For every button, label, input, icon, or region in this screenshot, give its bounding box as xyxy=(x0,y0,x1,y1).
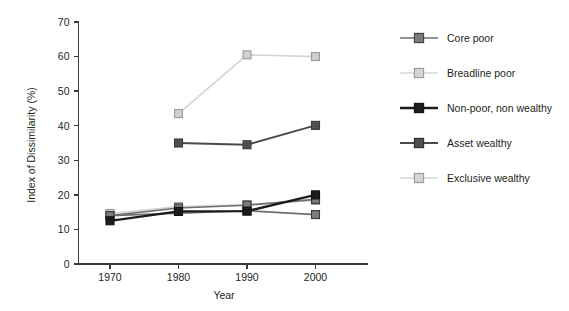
legend-marker-swatch xyxy=(414,138,423,147)
data-point-marker xyxy=(312,211,320,219)
legend-marker-swatch xyxy=(414,103,423,112)
y-axis-tick-label: 40 xyxy=(58,120,70,132)
chart-figure: 010203040506070 1970198019902000 Core po… xyxy=(0,0,569,311)
data-point-marker xyxy=(312,191,320,199)
x-axis-title: Year xyxy=(213,289,235,301)
data-point-marker xyxy=(243,207,251,215)
data-point-marker xyxy=(243,141,251,149)
legend-item[interactable]: Asset wealthy xyxy=(400,137,513,149)
data-point-marker xyxy=(175,207,183,215)
legend-label: Asset wealthy xyxy=(447,137,513,149)
legend-item[interactable]: Breadline poor xyxy=(400,67,516,79)
y-axis-tick-label: 0 xyxy=(64,258,70,270)
legend-marker-swatch xyxy=(414,173,423,182)
y-axis-title: Index of Dissimilarity (%) xyxy=(25,87,37,203)
y-axis-tick-label: 60 xyxy=(58,50,70,62)
data-point-marker xyxy=(175,110,183,118)
legend-item[interactable]: Core poor xyxy=(400,32,494,44)
legend-label: Exclusive wealthy xyxy=(447,172,531,184)
legend-item[interactable]: Exclusive wealthy xyxy=(400,172,531,184)
data-point-marker xyxy=(312,53,320,61)
y-axis-tick-label: 20 xyxy=(58,189,70,201)
x-axis-tick-label: 1980 xyxy=(167,271,191,283)
legend-item[interactable]: Non-poor, non wealthy xyxy=(400,102,553,114)
legend-marker-swatch xyxy=(414,33,423,42)
x-axis-tick-label: 1990 xyxy=(235,271,259,283)
legend-marker-swatch xyxy=(414,68,423,77)
data-point-marker xyxy=(175,139,183,147)
y-axis-tick-label: 30 xyxy=(58,154,70,166)
y-axis-tick-label: 70 xyxy=(58,16,70,28)
data-point-marker xyxy=(106,217,114,225)
data-point-marker xyxy=(312,121,320,129)
data-point-marker xyxy=(243,51,251,59)
line-chart: 010203040506070 1970198019902000 Core po… xyxy=(0,0,569,311)
y-axis-tick-label: 10 xyxy=(58,223,70,235)
legend-label: Breadline poor xyxy=(447,67,516,79)
legend-label: Non-poor, non wealthy xyxy=(447,102,553,114)
y-axis-tick-label: 50 xyxy=(58,85,70,97)
legend-label: Core poor xyxy=(447,32,494,44)
x-axis-tick-label: 1970 xyxy=(98,271,122,283)
x-axis-tick-label: 2000 xyxy=(304,271,328,283)
